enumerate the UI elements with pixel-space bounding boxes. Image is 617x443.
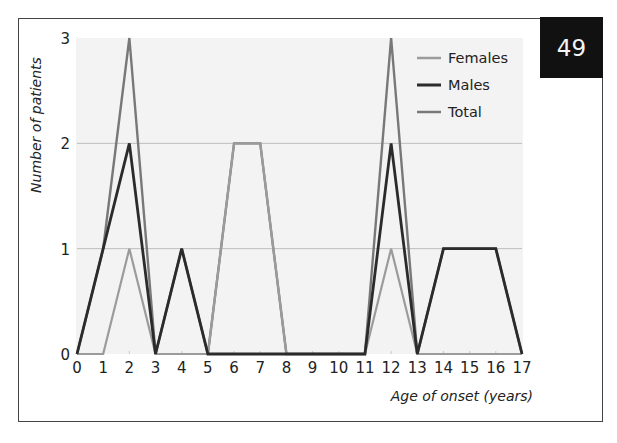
x-tick-label: 11 <box>355 359 374 377</box>
x-tick-label: 0 <box>72 359 82 377</box>
y-tick-labels: 0123 <box>60 30 70 364</box>
x-tick-label: 9 <box>308 359 318 377</box>
x-tick-label: 3 <box>151 359 161 377</box>
x-tick-label: 13 <box>408 359 427 377</box>
x-tick-label: 12 <box>382 359 401 377</box>
line-chart: 0123 01234567891011121314151617 Number o… <box>0 0 617 443</box>
x-tick-label: 14 <box>434 359 453 377</box>
x-tick-label: 5 <box>203 359 213 377</box>
legend-label-females: Females <box>448 50 508 66</box>
x-tick-label: 16 <box>486 359 505 377</box>
x-axis-title: Age of onset (years) <box>390 388 533 404</box>
x-tick-label: 10 <box>329 359 348 377</box>
y-tick-label: 2 <box>60 135 70 153</box>
x-tick-label: 2 <box>125 359 135 377</box>
x-tick-label: 4 <box>177 359 187 377</box>
y-tick-label: 0 <box>60 346 70 364</box>
page-number-badge: 49 <box>540 17 603 78</box>
y-tick-label: 3 <box>60 30 70 48</box>
x-tick-label: 8 <box>282 359 292 377</box>
legend-label-males: Males <box>448 77 490 93</box>
x-tick-label: 15 <box>460 359 479 377</box>
y-axis-title: Number of patients <box>28 57 44 193</box>
x-tick-label: 17 <box>512 359 531 377</box>
x-tick-labels: 01234567891011121314151617 <box>72 359 531 377</box>
x-tick-label: 6 <box>229 359 239 377</box>
x-tick-label: 1 <box>98 359 108 377</box>
y-tick-label: 1 <box>60 241 70 259</box>
legend-label-total: Total <box>447 104 482 120</box>
x-tick-label: 7 <box>255 359 265 377</box>
